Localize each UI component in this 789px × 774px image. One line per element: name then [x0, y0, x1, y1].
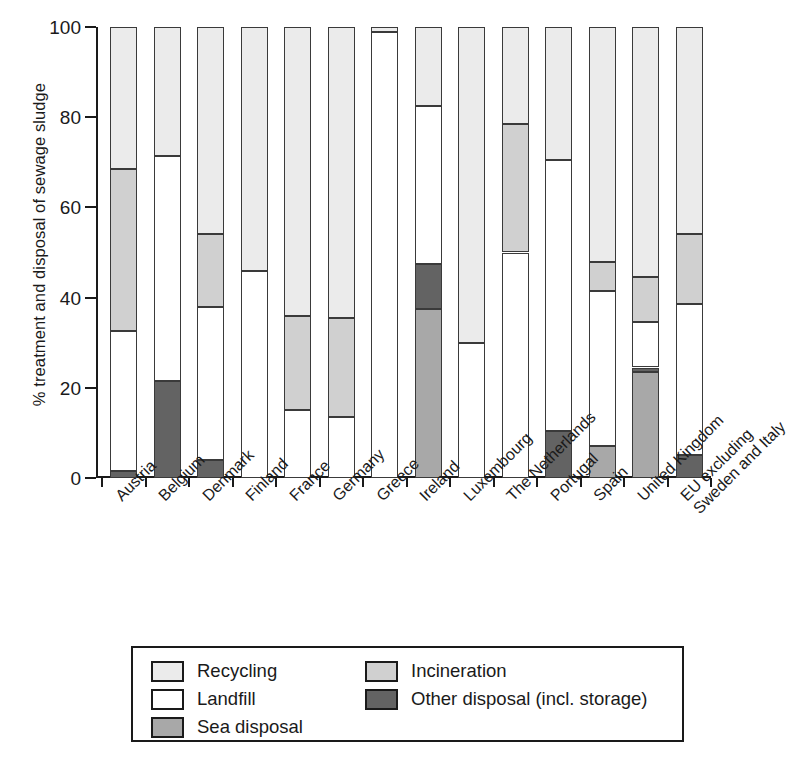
bar-segment[interactable] [502, 253, 529, 479]
bar-segment[interactable] [371, 32, 398, 478]
bar-segment[interactable] [371, 27, 398, 32]
bar-segment[interactable] [110, 27, 137, 169]
legend-item[interactable]: Other disposal (incl. storage) [365, 686, 648, 712]
legend-swatch-icon [151, 689, 184, 710]
x-tick [101, 478, 103, 487]
bar-segment[interactable] [458, 27, 485, 343]
x-tick [449, 478, 451, 487]
plot-area: 020406080100 [96, 27, 711, 478]
bar-segment[interactable] [545, 160, 572, 431]
bar-segment[interactable] [545, 27, 572, 160]
bar-segment[interactable] [676, 234, 703, 304]
x-tick [493, 478, 495, 487]
x-tick [232, 478, 234, 487]
x-tick [319, 478, 321, 487]
bar-segment[interactable] [676, 455, 703, 478]
bar-stack[interactable] [676, 27, 703, 478]
legend-swatch-icon [151, 717, 184, 738]
legend-label: Other disposal (incl. storage) [411, 688, 648, 710]
y-tick [85, 116, 96, 118]
bar-segment[interactable] [241, 27, 268, 271]
legend-swatch-icon [151, 661, 184, 682]
bar-segment[interactable] [328, 417, 355, 478]
legend-item[interactable]: Sea disposal [151, 714, 303, 740]
y-tick [85, 387, 96, 389]
y-axis-line [96, 27, 98, 478]
bar-segment[interactable] [632, 27, 659, 277]
bar-segment[interactable] [589, 27, 616, 262]
bar-segment[interactable] [197, 307, 224, 460]
legend-swatch-icon [365, 661, 398, 682]
bar-segment[interactable] [676, 304, 703, 455]
bar-segment[interactable] [415, 106, 442, 264]
bar-segment[interactable] [415, 264, 442, 309]
legend-item[interactable]: Landfill [151, 686, 303, 712]
bar-stack[interactable] [154, 27, 181, 478]
legend-label: Incineration [411, 660, 507, 682]
bar-stack[interactable] [589, 27, 616, 478]
bar-stack[interactable] [502, 27, 529, 478]
bar-stack[interactable] [632, 27, 659, 478]
bar-segment[interactable] [545, 431, 572, 478]
bar-segment[interactable] [328, 27, 355, 318]
bar-segment[interactable] [632, 368, 659, 373]
bar-segment[interactable] [328, 318, 355, 417]
y-tick [85, 477, 96, 479]
legend-item[interactable]: Incineration [365, 658, 648, 684]
y-tick [85, 297, 96, 299]
bar-segment[interactable] [154, 381, 181, 478]
y-tick [85, 206, 96, 208]
chart-legend: RecyclingLandfillSea disposal Incinerati… [131, 646, 684, 742]
bar-segment[interactable] [632, 322, 659, 367]
bar-segment[interactable] [110, 331, 137, 471]
legend-swatch-icon [365, 689, 398, 710]
x-tick [536, 478, 538, 487]
bar-segment[interactable] [197, 460, 224, 478]
bar-segment[interactable] [110, 471, 137, 478]
legend-label: Landfill [197, 688, 256, 710]
legend-item[interactable]: Recycling [151, 658, 303, 684]
bar-segment[interactable] [589, 262, 616, 291]
bar-segment[interactable] [110, 169, 137, 331]
bar-segment[interactable] [632, 277, 659, 322]
bar-segment[interactable] [284, 316, 311, 411]
bar-segment[interactable] [502, 124, 529, 253]
bar-stack[interactable] [284, 27, 311, 478]
x-tick [667, 478, 669, 487]
bar-stack[interactable] [545, 27, 572, 478]
bar-stack[interactable] [241, 27, 268, 478]
bar-stack[interactable] [110, 27, 137, 478]
bar-segment[interactable] [241, 271, 268, 478]
bar-stack[interactable] [328, 27, 355, 478]
x-tick [275, 478, 277, 487]
bar-segment[interactable] [589, 446, 616, 478]
bar-segment[interactable] [415, 27, 442, 106]
x-tick [580, 478, 582, 487]
x-tick [362, 478, 364, 487]
x-tick [406, 478, 408, 487]
bar-segment[interactable] [197, 27, 224, 234]
bar-segment[interactable] [284, 410, 311, 478]
bar-segment[interactable] [197, 234, 224, 306]
y-tick-label: 0 [26, 469, 81, 488]
bar-segment[interactable] [154, 156, 181, 382]
bar-segment[interactable] [154, 27, 181, 156]
bar-segment[interactable] [676, 27, 703, 234]
bar-stack[interactable] [197, 27, 224, 478]
y-axis-title: % treatment and disposal of sewage sludg… [30, 10, 49, 480]
bar-segment[interactable] [632, 372, 659, 478]
y-tick-label: 80 [26, 108, 81, 127]
bar-segment[interactable] [458, 343, 485, 478]
x-tick [188, 478, 190, 487]
bar-stack[interactable] [415, 27, 442, 478]
bar-segment[interactable] [502, 27, 529, 124]
bar-stack[interactable] [371, 27, 398, 478]
y-tick-label: 20 [26, 378, 81, 397]
bar-segment[interactable] [284, 27, 311, 316]
x-tick [710, 478, 712, 487]
bar-segment[interactable] [589, 291, 616, 447]
legend-column-2: IncinerationOther disposal (incl. storag… [365, 658, 648, 714]
bar-stack[interactable] [458, 27, 485, 478]
bar-segment[interactable] [415, 309, 442, 478]
